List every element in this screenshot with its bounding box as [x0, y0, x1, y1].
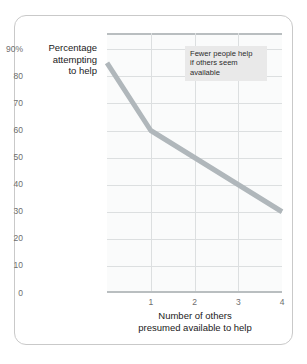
- y-axis-label: Percentage attempting to help: [23, 42, 97, 77]
- annotation-line-2: if others seem: [190, 58, 263, 67]
- y-tick-label: 60: [0, 126, 23, 135]
- annotation-line-1: Fewer people help: [190, 49, 263, 58]
- x-axis-label-line-2: presumed available to help: [99, 322, 291, 334]
- y-axis-label-line-1: Percentage: [23, 42, 97, 54]
- chart-annotation: Fewer people help if others seem availab…: [185, 46, 267, 81]
- x-tick-label: 2: [185, 298, 205, 307]
- y-tick-label: 0: [0, 289, 23, 298]
- x-axis-label-line-1: Number of others: [99, 310, 291, 322]
- y-tick-label: 20: [0, 234, 23, 243]
- y-axis-label-line-2: attempting: [23, 54, 97, 66]
- y-axis-label-line-3: to help: [23, 65, 97, 77]
- y-tick-label: 30: [0, 207, 23, 216]
- x-tick-label: 1: [141, 298, 161, 307]
- plot-area: Fewer people help if others seem availab…: [107, 33, 282, 293]
- x-axis-label: Number of others presumed available to h…: [99, 310, 291, 333]
- y-tick-label: 90%: [0, 45, 23, 54]
- x-tick-label: 3: [228, 298, 248, 307]
- x-tick-label: 4: [272, 298, 292, 307]
- y-tick-label: 10: [0, 261, 23, 270]
- y-tick-label: 50: [0, 153, 23, 162]
- y-tick-label: 80: [0, 72, 23, 81]
- annotation-line-3: available: [190, 68, 263, 77]
- y-tick-label: 70: [0, 99, 23, 108]
- chart-figure: Percentage attempting to help Fewer peop…: [14, 15, 293, 345]
- y-tick-label: 40: [0, 180, 23, 189]
